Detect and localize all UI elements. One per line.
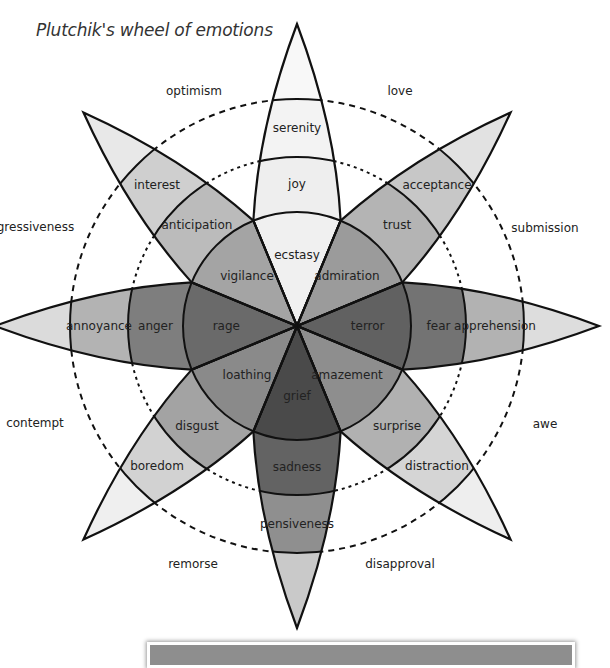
emotion-label-amazement: amazement — [311, 368, 383, 382]
dyad-label-love: love — [387, 84, 412, 98]
emotion-label-vigilance: vigilance — [220, 269, 274, 283]
emotion-label-acceptance: acceptance — [402, 178, 471, 192]
dyad-label-awe: awe — [533, 417, 558, 431]
emotion-label-interest: interest — [134, 178, 180, 192]
emotion-label-boredom: boredom — [130, 459, 184, 473]
bottom-panel — [147, 642, 575, 668]
dyad-label-contempt: contempt — [6, 416, 64, 430]
emotion-label-distraction: distraction — [405, 459, 469, 473]
emotion-label-anticipation: anticipation — [161, 218, 232, 232]
dyad-label-aggressiveness: aggressiveness — [0, 220, 74, 234]
emotion-label-sadness: sadness — [273, 460, 322, 474]
dyad-label-optimism: optimism — [166, 84, 222, 98]
dyad-label-submission: submission — [511, 221, 578, 235]
emotion-label-anger: anger — [138, 319, 173, 333]
emotion-label-rage: rage — [213, 319, 240, 333]
emotion-label-serenity: serenity — [273, 121, 321, 135]
emotion-label-ecstasy: ecstasy — [274, 248, 320, 262]
emotion-label-fear: fear — [427, 319, 451, 333]
dyad-label-disapproval: disapproval — [365, 557, 435, 571]
emotion-label-terror: terror — [351, 319, 385, 333]
emotion-label-disgust: disgust — [175, 419, 219, 433]
emotion-label-joy: joy — [287, 177, 306, 191]
dyad-label-remorse: remorse — [168, 557, 218, 571]
emotion-label-pensiveness: pensiveness — [260, 517, 334, 531]
emotion-label-loathing: loathing — [223, 368, 272, 382]
emotion-label-surprise: surprise — [373, 419, 421, 433]
emotion-label-annoyance: annoyance — [66, 319, 132, 333]
emotion-label-admiration: admiration — [314, 269, 379, 283]
emotion-label-trust: trust — [383, 218, 411, 232]
emotion-label-apprehension: apprehension — [454, 319, 536, 333]
emotion-label-grief: grief — [283, 389, 311, 403]
